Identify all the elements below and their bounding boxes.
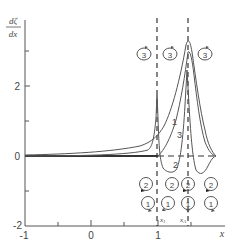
curve-label-3: 3 xyxy=(177,130,182,140)
svg-text:1: 1 xyxy=(209,200,214,209)
svg-text:1: 1 xyxy=(166,200,171,209)
svg-text:1: 1 xyxy=(146,200,151,209)
lower-circle-4: 1 xyxy=(205,197,218,213)
y-tick-label-2: 2 xyxy=(14,81,20,92)
curve-label-2: 2 xyxy=(173,160,178,170)
svg-text:2: 2 xyxy=(144,181,149,190)
x-axis-label: x xyxy=(219,228,225,239)
x-tick-label-1: 1 xyxy=(155,230,161,241)
curve-label-1: 1 xyxy=(172,117,177,127)
svg-text:2: 2 xyxy=(186,181,191,190)
middle-circle-4: 2 xyxy=(205,178,218,193)
upper-circle-2: 3 xyxy=(163,46,177,60)
middle-circle-1: 2 xyxy=(140,178,153,193)
svg-text:1: 1 xyxy=(186,200,191,209)
x-tick-label-neg1: -1 xyxy=(20,230,29,241)
curve-2 xyxy=(25,70,216,173)
svg-text:2: 2 xyxy=(170,181,175,190)
marker-label-xA: xA xyxy=(179,216,187,224)
y-axis-label-denominator: dx xyxy=(9,29,18,39)
upper-circle-3: 3 xyxy=(198,46,212,60)
svg-text:3: 3 xyxy=(168,51,173,60)
lower-circle-1: 1 xyxy=(142,197,155,213)
chart: 2 0 -2 -1 0 1 x dζ dx 1 3 2 3 3 3 2 xyxy=(0,0,235,247)
y-tick-label-0: 0 xyxy=(14,151,20,162)
marker-label-x1: x1 xyxy=(159,216,166,224)
y-axis-label-numerator: dζ xyxy=(9,16,19,26)
svg-text:2: 2 xyxy=(209,181,214,190)
x-tick-label-0: 0 xyxy=(88,230,94,241)
upper-circle-1: 3 xyxy=(137,46,151,60)
lower-circle-3: 1 xyxy=(182,197,195,214)
middle-circle-2: 2 xyxy=(166,178,179,191)
x-ticks xyxy=(58,220,191,226)
lower-circle-2: 1 xyxy=(162,197,175,212)
y-ticks xyxy=(25,51,30,191)
svg-text:3: 3 xyxy=(203,51,208,60)
svg-text:3: 3 xyxy=(142,51,147,60)
